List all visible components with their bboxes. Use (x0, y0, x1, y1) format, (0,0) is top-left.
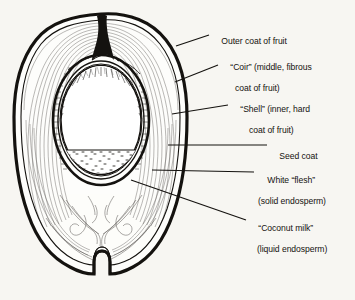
label-seed-coat-line1: Seed coat (279, 151, 317, 161)
label-coconut-milk-line2: (liquid endosperm) (249, 244, 327, 255)
coconut-diagram-figure: Outer coat of fruit “Coir” (middle, fibr… (0, 0, 355, 300)
label-white-flesh-line2: (solid endosperm) (258, 196, 326, 207)
label-shell-line2: coat of fruit) (231, 125, 310, 136)
label-coconut-milk: “Coconut milk” (liquid endosperm) (249, 212, 327, 276)
label-coir-line2: coat of fruit) (221, 83, 312, 94)
label-outer-coat-line1: Outer coat of fruit (221, 36, 286, 46)
label-white-flesh-line1: White “flesh” (267, 175, 315, 185)
label-coconut-milk-line1: “Coconut milk” (258, 223, 313, 233)
leader-outer-coat (176, 35, 209, 46)
label-coir-line1: “Coir” (middle, fibrous (230, 62, 311, 72)
label-shell-line1: “Shell” (inner, hard (240, 104, 310, 114)
